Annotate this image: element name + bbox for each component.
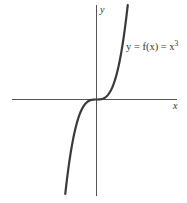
x-axis-label: x (172, 100, 178, 111)
y-axis-label: y (99, 4, 105, 15)
cubic-function-graph: y x y = f(x) = x3 (0, 0, 187, 203)
function-annotation: y = f(x) = x3 (126, 39, 179, 53)
function-annotation-exponent: 3 (175, 39, 179, 48)
function-annotation-main: y = f(x) = x (126, 41, 175, 53)
